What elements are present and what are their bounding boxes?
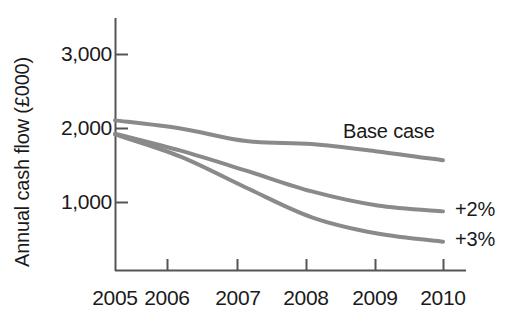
line-chart: Annual cash flow (£000) 3,000 2,000 1,00…: [0, 0, 513, 324]
plot-area: [0, 0, 513, 324]
x-axis-ticks: [168, 259, 444, 270]
series-line-2: [115, 134, 443, 212]
series-line-base-case: [115, 120, 443, 160]
y-axis-ticks: [115, 55, 128, 203]
series-paths-group: [115, 120, 443, 241]
series-line-3: [115, 134, 443, 241]
